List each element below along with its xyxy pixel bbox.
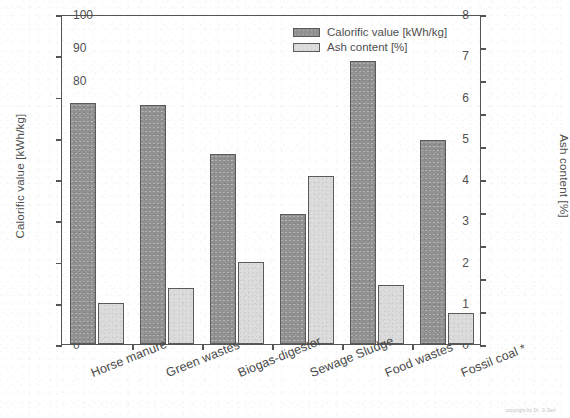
bar-group bbox=[202, 16, 272, 344]
bar-ash-content bbox=[308, 176, 334, 344]
legend-swatch-calorific-icon bbox=[293, 28, 320, 37]
legend-swatch-ash-icon bbox=[293, 43, 320, 52]
y2-tick-mark bbox=[480, 345, 486, 347]
legend-item-ash: Ash content [%] bbox=[293, 40, 447, 55]
x-tick-mark bbox=[272, 344, 274, 350]
x-tick-mark bbox=[412, 344, 414, 350]
legend-item-calorific: Calorific value [kWh/kg] bbox=[293, 25, 447, 40]
bar-group bbox=[272, 16, 342, 344]
x-tick-mark bbox=[342, 344, 344, 350]
y-axis-title: Calorific value [kWh/kg] bbox=[14, 76, 26, 276]
y-tick-mark bbox=[56, 345, 62, 347]
bar-calorific-value bbox=[420, 140, 446, 344]
bar-ash-content bbox=[168, 288, 194, 344]
bar-ash-content bbox=[238, 262, 264, 345]
bar-calorific-value bbox=[70, 103, 96, 344]
x-tick-mark bbox=[202, 344, 204, 350]
bar-calorific-value bbox=[210, 154, 236, 344]
bar-calorific-value bbox=[350, 61, 376, 344]
x-axis-label: Fossil coal * bbox=[459, 341, 528, 380]
secondary-y-axis-title: Ash content [%] bbox=[558, 76, 570, 276]
legend-label-ash: Ash content [%] bbox=[327, 40, 408, 55]
chart-legend: Calorific value [kWh/kg] Ash content [%] bbox=[293, 25, 447, 55]
bar-group bbox=[412, 16, 482, 344]
plot-area: 012345678 0102030405060708090100 Calorif… bbox=[61, 15, 481, 345]
bar-calorific-value bbox=[140, 105, 166, 344]
bar-group bbox=[62, 16, 132, 344]
bar-calorific-value bbox=[280, 214, 306, 344]
copyright-note: copyright by Dr. G.Seri bbox=[505, 408, 556, 413]
bar-group bbox=[132, 16, 202, 344]
bar-ash-content bbox=[448, 313, 474, 344]
legend-label-calorific: Calorific value [kWh/kg] bbox=[327, 25, 447, 40]
bar-ash-content bbox=[98, 303, 124, 344]
bar-group bbox=[342, 16, 412, 344]
